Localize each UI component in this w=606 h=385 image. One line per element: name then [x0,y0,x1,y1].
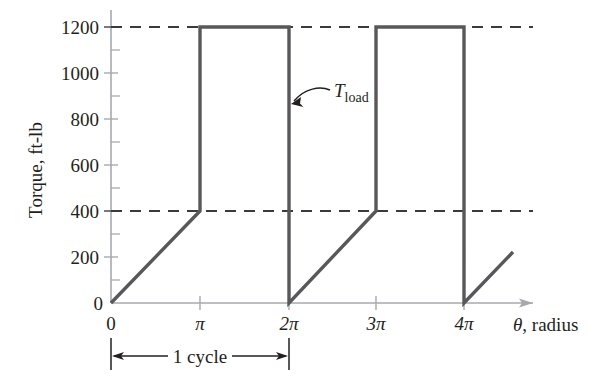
x-tick-label-4pi: 4π [454,313,474,334]
chart-figure: 1200 1000 800 600 400 200 0 0 π 2π 3π 4π… [0,0,606,385]
y-tick-label-600: 600 [71,155,100,176]
y-tick-label-800: 800 [71,109,100,130]
y-tick-label-1000: 1000 [61,63,99,84]
y-tick-label-0: 0 [94,293,104,314]
x-axis-title: θ, radius [513,314,578,335]
torque-vs-angle-chart: 1200 1000 800 600 400 200 0 0 π 2π 3π 4π… [0,0,606,385]
x-tick-label-3pi: 3π [365,313,386,334]
y-tick-label-1200: 1200 [61,17,99,38]
x-tick-label-pi: π [195,313,205,334]
x-axis-title-rest: , radius [522,314,578,335]
x-axis-title-symbol: θ [513,314,522,335]
y-tick-label-200: 200 [71,247,100,268]
one-cycle-label: 1 cycle [173,346,227,367]
y-axis-title: Torque, ft-lb [25,122,46,218]
y-tick-label-400: 400 [71,201,100,222]
x-tick-label-2pi: 2π [279,313,299,334]
t-load-label-sub: load [345,90,369,105]
x-tick-label-0: 0 [106,313,116,334]
